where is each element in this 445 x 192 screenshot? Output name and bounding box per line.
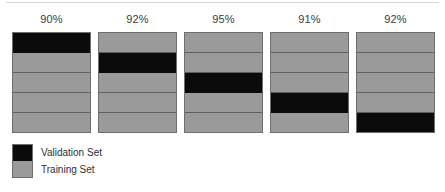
fold-stack-1 bbox=[12, 32, 91, 133]
band-training bbox=[13, 53, 90, 73]
band-validation bbox=[99, 53, 176, 73]
band-training bbox=[185, 33, 262, 53]
fold-stack-3 bbox=[184, 32, 263, 133]
fold-accuracy-label-2: 92% bbox=[98, 12, 177, 26]
band-training bbox=[185, 113, 262, 132]
band-training bbox=[13, 113, 90, 132]
band-training bbox=[271, 73, 348, 93]
band-training bbox=[357, 93, 434, 113]
cross-validation-figure: 90% 92% 95% 91% bbox=[0, 0, 445, 192]
band-training bbox=[99, 33, 176, 53]
band-training bbox=[271, 33, 348, 53]
band-training bbox=[99, 113, 176, 132]
band-training bbox=[271, 113, 348, 132]
fold-stack-2 bbox=[98, 32, 177, 133]
band-training bbox=[357, 73, 434, 93]
top-divider-rule bbox=[6, 2, 439, 3]
legend-label-validation: Validation Set bbox=[41, 144, 102, 161]
band-training bbox=[13, 93, 90, 113]
legend-label-training: Training Set bbox=[41, 161, 95, 178]
fold-accuracy-label-1: 90% bbox=[12, 12, 91, 26]
legend-swatch-validation bbox=[13, 145, 32, 161]
band-validation bbox=[13, 33, 90, 53]
band-training bbox=[99, 93, 176, 113]
band-training bbox=[13, 73, 90, 93]
band-training bbox=[357, 53, 434, 73]
band-training bbox=[271, 53, 348, 73]
fold-accuracy-label-3: 95% bbox=[184, 12, 263, 26]
band-training bbox=[357, 33, 434, 53]
legend-swatch-training bbox=[13, 161, 32, 177]
band-training bbox=[185, 93, 262, 113]
fold-stack-4 bbox=[270, 32, 349, 133]
fold-stack-5 bbox=[356, 32, 435, 133]
band-training bbox=[99, 73, 176, 93]
band-validation bbox=[185, 73, 262, 93]
fold-accuracy-label-5: 92% bbox=[356, 12, 435, 26]
band-validation bbox=[357, 113, 434, 132]
fold-accuracy-label-4: 91% bbox=[270, 12, 349, 26]
band-validation bbox=[271, 93, 348, 113]
band-training bbox=[185, 53, 262, 73]
legend-swatch-box bbox=[12, 144, 33, 178]
